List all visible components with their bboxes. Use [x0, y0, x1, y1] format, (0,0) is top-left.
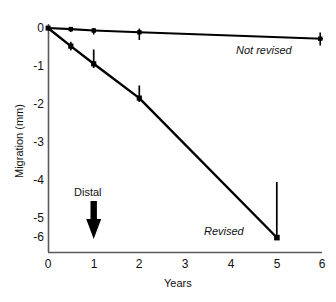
data-point-revised-1: [91, 61, 96, 66]
annotation-distal-label: Distal: [74, 187, 102, 198]
y-tick-label-3: -3: [22, 136, 44, 148]
y-tick-label-5: -5: [22, 212, 44, 224]
x-tick-label-3: 3: [175, 258, 195, 270]
series-not-revised-line: [48, 28, 322, 39]
x-axis-title: Years: [164, 278, 192, 289]
y-axis-title: Migration (mm): [14, 104, 25, 178]
chart-axes: [48, 24, 322, 253]
series-revised-line: [48, 28, 277, 238]
y-tick-label-2: -2: [22, 98, 44, 110]
y-tick-label-1: -1: [22, 60, 44, 72]
x-tick-label-4: 4: [221, 258, 241, 270]
x-tick-label-0: 0: [38, 258, 58, 270]
x-tick-label-6: 6: [312, 258, 332, 270]
series-label-revised: Revised: [204, 226, 244, 237]
x-tick-label-1: 1: [84, 258, 104, 270]
x-tick-label-5: 5: [267, 258, 287, 270]
migration-line-chart: 0 -1 -2 -3 -4 -5 -6 0 1 2 3 4 5 6 Migrat…: [0, 0, 336, 302]
data-point-revised-5: [274, 235, 280, 241]
y-tick-label-0: 0: [24, 22, 44, 34]
data-point-revised-2: [137, 96, 142, 101]
x-tick-label-2: 2: [129, 258, 149, 270]
y-tick-label-4: -4: [22, 174, 44, 186]
data-point-not-revised-0.5: [69, 27, 73, 31]
data-point-revised-0.5: [68, 44, 73, 49]
data-point-not-revised-6: [318, 37, 322, 41]
y-tick-label-6: -6: [22, 231, 44, 243]
data-point-not-revised-1: [92, 28, 96, 32]
data-point-not-revised-2: [137, 30, 141, 34]
distal-arrow-icon: [86, 201, 101, 239]
series-not-revised: [46, 26, 323, 46]
series-label-not-revised: Not revised: [236, 45, 292, 56]
series-revised: [48, 28, 280, 240]
